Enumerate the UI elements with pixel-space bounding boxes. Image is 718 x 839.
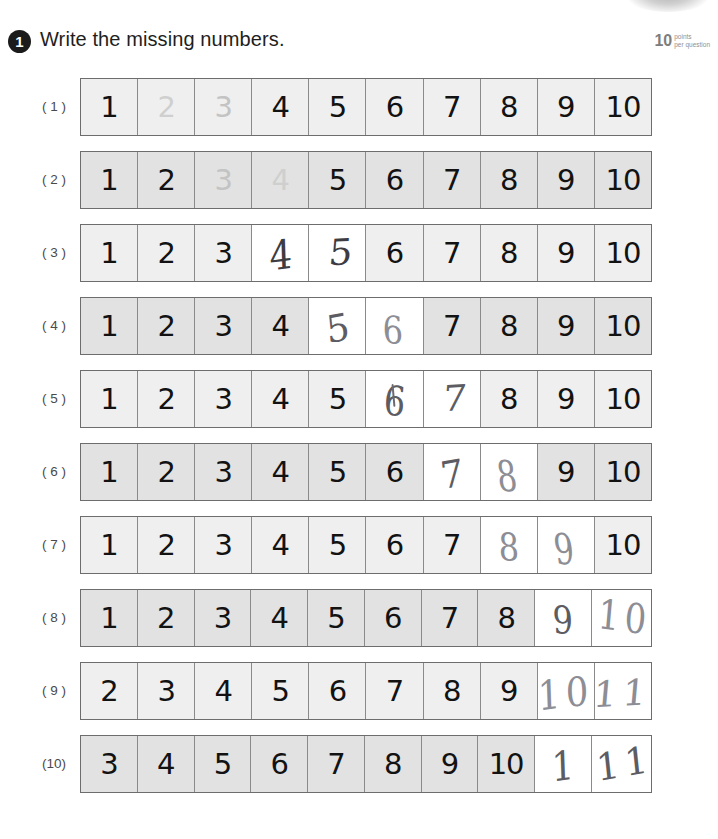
printed-number: 2 xyxy=(157,309,174,343)
answer-cell[interactable]: 10 xyxy=(592,590,651,646)
number-cell: 7 xyxy=(424,79,481,135)
printed-number: 9 xyxy=(557,455,574,489)
row-label: ( 2 ) xyxy=(0,151,74,209)
printed-number: 7 xyxy=(443,528,460,562)
printed-number: 5 xyxy=(329,455,346,489)
printed-number: 10 xyxy=(605,309,640,343)
handwritten-answer: 7 xyxy=(438,450,466,498)
number-cell: 3 xyxy=(195,371,252,427)
number-grid: 234567891011 xyxy=(80,662,652,720)
printed-number: 5 xyxy=(272,674,289,708)
printed-number: 7 xyxy=(443,90,460,124)
printed-number: 2 xyxy=(157,382,174,416)
number-grid: 12345678910 xyxy=(80,443,652,501)
printed-number: 8 xyxy=(500,309,517,343)
faded-guide-number: 2 xyxy=(157,90,174,124)
faded-guide-number: 3 xyxy=(215,90,232,124)
printed-number: 4 xyxy=(272,455,289,489)
number-grid: 12345678910 xyxy=(80,151,652,209)
row-label: ( 9 ) xyxy=(0,662,74,720)
number-cell: 10 xyxy=(595,371,651,427)
number-cell: 8 xyxy=(481,225,538,281)
row-label: ( 8 ) xyxy=(0,589,74,647)
printed-number: 2 xyxy=(157,163,174,197)
number-cell: 10 xyxy=(595,79,651,135)
number-cell: 8 xyxy=(481,298,538,354)
number-row: ( 3 )12345678910 xyxy=(0,224,718,282)
answer-cell[interactable]: 6 xyxy=(366,298,423,354)
number-row: (10)345678910111 xyxy=(0,735,718,793)
number-cell: 3 xyxy=(195,590,252,646)
number-cell: 1 xyxy=(81,371,138,427)
number-cell: 3 xyxy=(138,663,195,719)
printed-number: 3 xyxy=(215,309,232,343)
printed-number: 3 xyxy=(215,382,232,416)
number-cell: 9 xyxy=(538,225,595,281)
answer-cell[interactable]: 1 xyxy=(535,736,592,792)
printed-number: 5 xyxy=(329,382,346,416)
handwritten-answer: 6 xyxy=(381,306,403,352)
printed-number: 7 xyxy=(443,236,460,270)
number-row: ( 6 )12345678910 xyxy=(0,443,718,501)
answer-cell[interactable]: 4 xyxy=(252,225,309,281)
printed-number: 1 xyxy=(100,455,117,489)
answer-cell[interactable]: 9 xyxy=(535,590,592,646)
answer-cell[interactable]: 7 xyxy=(424,371,481,427)
number-cell: 6 xyxy=(309,663,366,719)
handwritten-answer: 9 xyxy=(551,523,577,574)
printed-number: 4 xyxy=(272,309,289,343)
printed-number: 1 xyxy=(100,236,117,270)
printed-number: 3 xyxy=(215,455,232,489)
answer-cell[interactable]: 8 xyxy=(481,444,538,500)
printed-number: 6 xyxy=(386,455,403,489)
number-grid: 12345678910 xyxy=(80,78,652,136)
number-cell: 4 xyxy=(251,590,308,646)
number-cell: 2 xyxy=(81,663,138,719)
answer-cell[interactable]: 11 xyxy=(592,736,651,792)
printed-number: 4 xyxy=(272,90,289,124)
answer-cell[interactable]: 6 xyxy=(366,371,423,427)
printed-number: 7 xyxy=(443,309,460,343)
printed-number: 9 xyxy=(441,747,458,781)
number-cell: 8 xyxy=(481,79,538,135)
handwritten-answer: 8 xyxy=(494,450,520,501)
answer-cell[interactable]: 9 xyxy=(538,517,595,573)
row-label: ( 7 ) xyxy=(0,516,74,574)
number-cell: 4 xyxy=(252,517,309,573)
number-cell: 3 xyxy=(195,225,252,281)
answer-cell[interactable]: 5 xyxy=(309,225,366,281)
printed-number: 8 xyxy=(497,601,514,635)
printed-number: 3 xyxy=(215,236,232,270)
row-label: ( 4 ) xyxy=(0,297,74,355)
number-cell: 3 xyxy=(195,152,252,208)
worksheet-header: 1 Write the missing numbers. 10pointsper… xyxy=(0,28,718,60)
answer-cell[interactable]: 8 xyxy=(481,517,538,573)
number-cell: 4 xyxy=(252,444,309,500)
printed-number: 5 xyxy=(329,163,346,197)
number-cell: 4 xyxy=(252,371,309,427)
answer-cell[interactable]: 10 xyxy=(538,663,595,719)
page-title: Write the missing numbers. xyxy=(40,28,285,51)
number-cell: 1 xyxy=(81,225,138,281)
answer-cell[interactable]: 7 xyxy=(424,444,481,500)
answer-cell[interactable]: 5 xyxy=(309,298,366,354)
printed-number: 10 xyxy=(605,236,640,270)
row-label: ( 6 ) xyxy=(0,443,74,501)
number-cell: 10 xyxy=(595,444,651,500)
number-cell: 1 xyxy=(81,79,138,135)
printed-number: 8 xyxy=(500,90,517,124)
number-cell: 5 xyxy=(309,517,366,573)
printed-number: 1 xyxy=(100,309,117,343)
number-cell: 9 xyxy=(538,298,595,354)
answer-cell[interactable]: 11 xyxy=(595,663,651,719)
number-cell: 7 xyxy=(424,225,481,281)
handwritten-answer: 10 xyxy=(537,666,594,720)
printed-number: 4 xyxy=(272,382,289,416)
number-cell: 5 xyxy=(195,736,252,792)
number-cell: 3 xyxy=(195,444,252,500)
number-cell: 6 xyxy=(251,736,308,792)
number-cell: 10 xyxy=(595,152,651,208)
printed-number: 8 xyxy=(500,236,517,270)
number-cell: 2 xyxy=(138,298,195,354)
number-cell: 4 xyxy=(195,663,252,719)
